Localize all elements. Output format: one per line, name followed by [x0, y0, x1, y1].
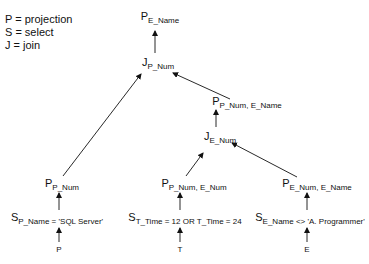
node-select-pname: SP_Name = 'SQL Server' — [11, 211, 103, 223]
leaf-relation-e: E — [304, 245, 309, 254]
edge-proj-right-to-join-enum — [232, 143, 297, 177]
node-projection-pnum: PP_Num — [45, 177, 79, 189]
leaf-relation-p: P — [56, 245, 61, 254]
node-select-ttime: ST_Time = 12 OR T_Time = 24 — [128, 211, 241, 223]
node-projection-enum-ename: PE_Num, E_Name — [282, 177, 352, 189]
node-select-ename: SE_Name <> 'A. Programmer' — [255, 211, 365, 223]
node-projection-pnum-ename: PP_Num, E_Name — [212, 95, 282, 107]
leaf-relation-t: T — [178, 245, 183, 254]
node-projection-pnum-enum: PP_Num, E_Num — [161, 177, 226, 189]
edge-proj-pnum-to-join — [63, 74, 141, 176]
edge-proj-mid-to-join-enum — [186, 153, 203, 176]
node-root-projection: PE_Name — [141, 10, 179, 22]
node-join-pnum: JP_Num — [142, 56, 174, 68]
node-join-enum: JE_Num — [204, 130, 236, 142]
